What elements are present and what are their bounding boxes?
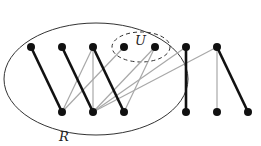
bottom-nodes — [58, 108, 252, 116]
label-r: R — [58, 129, 69, 144]
bipartite-graph-diagram: U R — [0, 0, 261, 146]
region-r-ellipse — [4, 23, 188, 135]
label-u: U — [135, 33, 147, 48]
weak-edges — [62, 47, 217, 112]
top-nodes — [27, 43, 221, 51]
